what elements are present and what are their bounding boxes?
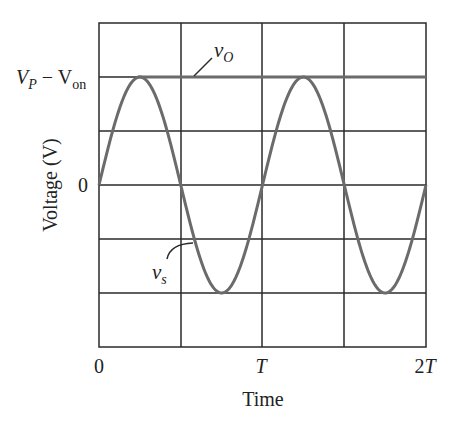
vo-leader-line <box>194 58 212 76</box>
vo-label: vO <box>214 38 233 65</box>
vs-label: vs <box>152 260 167 287</box>
vs-leader-line <box>167 243 193 259</box>
x-tick-T: T <box>255 355 268 377</box>
y-tick-zero: 0 <box>78 174 88 196</box>
voltage-time-diagram: vO vs VP − Von 0 0 T 2T Time Voltage (V) <box>0 0 461 430</box>
y-axis-title: Voltage (V) <box>39 138 62 232</box>
y-tick-vp-von: VP − Von <box>16 66 86 92</box>
x-tick-2T: 2T <box>414 355 437 377</box>
x-tick-zero: 0 <box>94 355 104 377</box>
x-axis-title: Time <box>242 388 284 410</box>
